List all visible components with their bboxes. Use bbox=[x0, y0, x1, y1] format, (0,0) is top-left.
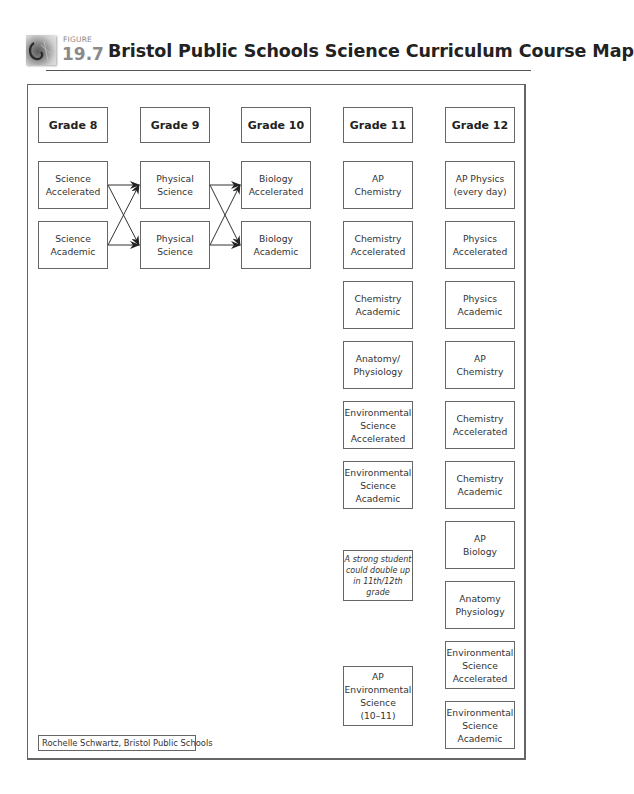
credit-label: Rochelle Schwartz, Bristol Public School… bbox=[38, 735, 196, 751]
figure-label: FIGURE bbox=[63, 35, 92, 44]
page-title: Bristol Public Schools Science Curriculu… bbox=[108, 41, 634, 61]
course-g12-ap-physics: AP Physics (every day) bbox=[445, 161, 515, 209]
grade-11-header: Grade 11 bbox=[343, 107, 413, 143]
grade-8-header: Grade 8 bbox=[38, 107, 108, 143]
course-g11-ap-chemistry: AP Chemistry bbox=[343, 161, 413, 209]
figure-number: 19.7 bbox=[62, 44, 104, 64]
course-g12-anatomy-physiology: Anatomy Physiology bbox=[445, 581, 515, 629]
grade-9-header: Grade 9 bbox=[140, 107, 210, 143]
course-g11-chemistry-accelerated: Chemistry Accelerated bbox=[343, 221, 413, 269]
course-science-accelerated: Science Accelerated bbox=[38, 161, 108, 209]
grade-12-header: Grade 12 bbox=[445, 107, 515, 143]
figure-thumbnail-icon bbox=[26, 35, 56, 65]
grade-10-header: Grade 10 bbox=[241, 107, 311, 143]
course-science-academic: Science Academic bbox=[38, 221, 108, 269]
course-g12-env-science-academic: Environmental Science Academic bbox=[445, 701, 515, 749]
course-g12-physics-accelerated: Physics Accelerated bbox=[445, 221, 515, 269]
double-up-note: A strong student could double up in 11th… bbox=[343, 550, 413, 601]
course-g11-chemistry-academic: Chemistry Academic bbox=[343, 281, 413, 329]
course-g12-physics-academic: Physics Academic bbox=[445, 281, 515, 329]
course-biology-academic: Biology Academic bbox=[241, 221, 311, 269]
course-g12-chemistry-academic: Chemistry Academic bbox=[445, 461, 515, 509]
course-g12-ap-biology: AP Biology bbox=[445, 521, 515, 569]
title-divider bbox=[46, 70, 531, 71]
course-g11-anatomy-physiology: Anatomy/ Physiology bbox=[343, 341, 413, 389]
course-biology-accelerated: Biology Accelerated bbox=[241, 161, 311, 209]
course-physical-science-top: Physical Science bbox=[140, 161, 210, 209]
course-g12-env-science-accelerated: Environmental Science Accelerated bbox=[445, 641, 515, 689]
course-physical-science-bottom: Physical Science bbox=[140, 221, 210, 269]
course-g11-env-science-academic: Environmental Science Academic bbox=[343, 461, 413, 509]
course-g12-ap-chemistry: AP Chemistry bbox=[445, 341, 515, 389]
course-g11-env-science-accelerated: Environmental Science Accelerated bbox=[343, 401, 413, 449]
course-g11-ap-env-science: AP Environmental Science (10–11) bbox=[343, 666, 413, 726]
course-g12-chemistry-accelerated: Chemistry Accelerated bbox=[445, 401, 515, 449]
